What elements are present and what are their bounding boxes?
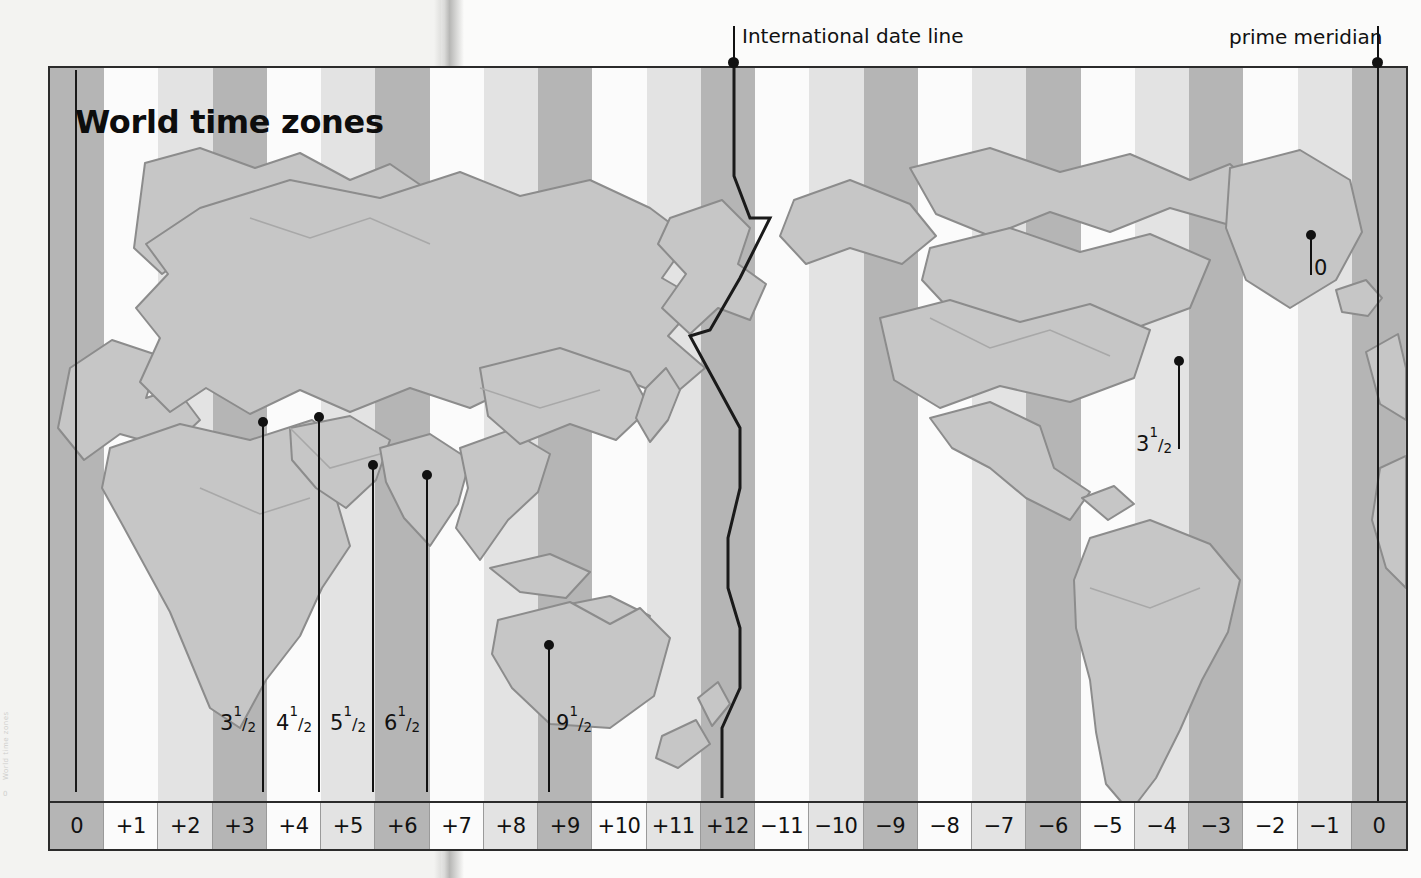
half-hour-label-newfoundland: 31/2 bbox=[1136, 434, 1172, 455]
leader-line-newfoundland bbox=[1178, 361, 1180, 449]
half-hour-label-india: 51/2 bbox=[330, 713, 366, 734]
leader-line-iran bbox=[262, 422, 264, 792]
zone-label-text: −8 bbox=[929, 814, 959, 838]
zone-label-text: −1 bbox=[1309, 814, 1339, 838]
leader-line-myanmar bbox=[426, 475, 428, 792]
label-iceland: 0 bbox=[1314, 258, 1327, 279]
gutter-caption: World time zones bbox=[2, 560, 16, 780]
zone-label-text: +10 bbox=[598, 814, 641, 838]
zone-label-minus9: −9 bbox=[864, 803, 918, 849]
half-hour-label-afghanistan: 41/2 bbox=[276, 713, 312, 734]
zone-label-text: +6 bbox=[387, 814, 417, 838]
zone-label-0: 0 bbox=[50, 803, 104, 849]
half-hour-label-iran: 31/2 bbox=[220, 713, 256, 734]
world-time-zone-map: World time zones 31/2 41/2 51/2 61/2 91/… bbox=[48, 66, 1408, 851]
zone-label-+10: +10 bbox=[592, 803, 646, 849]
zone-label-minus3: −3 bbox=[1189, 803, 1243, 849]
zone-label-text: +5 bbox=[333, 814, 363, 838]
zone-label-+3: +3 bbox=[213, 803, 267, 849]
zone-label-+7: +7 bbox=[430, 803, 484, 849]
zone-label-minus7: −7 bbox=[972, 803, 1026, 849]
half-hour-label-myanmar: 61/2 bbox=[384, 713, 420, 734]
zone-label-strip: 0+1+2+3+4+5+6+7+8+9+10+11+12−11−10−9−8−7… bbox=[50, 801, 1406, 849]
zone-label-+8: +8 bbox=[484, 803, 538, 849]
zone-label-text: −4 bbox=[1146, 814, 1176, 838]
leader-line-iceland bbox=[1310, 235, 1312, 275]
zone-label-text: −6 bbox=[1038, 814, 1068, 838]
date-line-callout-dot bbox=[728, 57, 739, 68]
zone-label-minus4: −4 bbox=[1135, 803, 1189, 849]
zone-label-minus8: −8 bbox=[918, 803, 972, 849]
zone-label-text: +4 bbox=[279, 814, 309, 838]
zone-label-+1: +1 bbox=[104, 803, 158, 849]
leader-line-afghanistan bbox=[318, 417, 320, 792]
page-title: World time zones bbox=[75, 103, 384, 141]
zone-label-minus1: −1 bbox=[1298, 803, 1352, 849]
zone-label-text: 0 bbox=[1372, 814, 1385, 838]
zone-label-minus10: −10 bbox=[809, 803, 863, 849]
zone-label-text: −7 bbox=[984, 814, 1014, 838]
zone-label-minus2: −2 bbox=[1243, 803, 1297, 849]
zone-label-minus5: −5 bbox=[1081, 803, 1135, 849]
zone-label-+6: +6 bbox=[375, 803, 429, 849]
zone-label-text: +12 bbox=[706, 814, 749, 838]
zone-label-text: +9 bbox=[550, 814, 580, 838]
zone-label-+4: +4 bbox=[267, 803, 321, 849]
zone-label-text: +3 bbox=[224, 814, 254, 838]
zone-label-text: +7 bbox=[441, 814, 471, 838]
zone-label-text: −11 bbox=[760, 814, 803, 838]
zone-label-+11: +11 bbox=[647, 803, 701, 849]
zone-label-text: +11 bbox=[652, 814, 695, 838]
zone-label-text: +8 bbox=[496, 814, 526, 838]
zone-label-text: −3 bbox=[1201, 814, 1231, 838]
zone-label-text: −10 bbox=[815, 814, 858, 838]
leader-line-australia-central bbox=[548, 645, 550, 792]
prime-meridian-callout-dot bbox=[1372, 57, 1383, 68]
date-line-callout-label: International date line bbox=[742, 24, 964, 48]
zone-label-0: 0 bbox=[1352, 803, 1406, 849]
zone-label-text: −5 bbox=[1092, 814, 1122, 838]
half-hour-label-australia-central: 91/2 bbox=[556, 713, 592, 734]
zone-label-minus6: −6 bbox=[1026, 803, 1080, 849]
zone-label-text: −9 bbox=[875, 814, 905, 838]
zone-label-minus11: −11 bbox=[755, 803, 809, 849]
gutter-page-number: 0 bbox=[3, 790, 7, 798]
zone-label-+9: +9 bbox=[538, 803, 592, 849]
zone-label-text: −2 bbox=[1255, 814, 1285, 838]
zone-label-+5: +5 bbox=[321, 803, 375, 849]
zone-label-text: +2 bbox=[170, 814, 200, 838]
leader-line-india bbox=[372, 465, 374, 792]
prime-meridian-callout-label: prime meridian bbox=[1229, 25, 1382, 49]
zone-label-text: 0 bbox=[70, 814, 83, 838]
zone-label-text: +1 bbox=[116, 814, 146, 838]
zone-label-+2: +2 bbox=[158, 803, 212, 849]
zone-label-+12: +12 bbox=[701, 803, 755, 849]
